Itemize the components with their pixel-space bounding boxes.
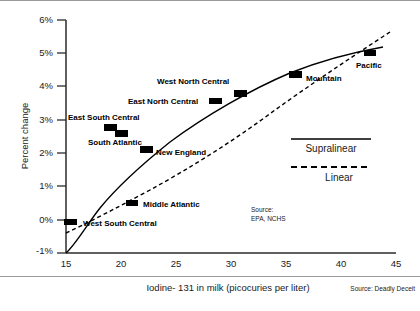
y-tick-label-4: 4% xyxy=(39,80,53,91)
y-tick-label-neg1: -1% xyxy=(36,245,53,256)
point-label-east-north-central: East North Central xyxy=(128,97,198,106)
chart-legend: Supralinear Linear xyxy=(291,139,371,183)
point-label-west-north-central: West North Central xyxy=(157,77,229,86)
marker-middle-atlantic xyxy=(126,200,138,206)
y-tick-label-1: 1% xyxy=(39,180,53,191)
chart-figure: 6% 5% 4% 3% 2% 1% 0% -1% 15 20 25 30 35 … xyxy=(0,0,420,311)
y-axis-title: Percent change xyxy=(19,103,30,170)
y-axis-ticks xyxy=(57,20,66,253)
point-label-pacific: Pacific xyxy=(356,61,382,70)
point-label-mountain: Mountain xyxy=(306,74,342,83)
marker-west-north-central xyxy=(234,90,247,97)
x-tick-label-15: 15 xyxy=(61,258,72,269)
source-note-line1: Source: xyxy=(251,206,274,213)
marker-east-south-central xyxy=(104,124,117,131)
x-tick-label-20: 20 xyxy=(116,258,127,269)
y-tick-label-6: 6% xyxy=(39,14,53,25)
x-tick-label-30: 30 xyxy=(226,258,237,269)
point-label-middle-atlantic: Middle Atlantic xyxy=(143,200,200,209)
point-label-east-south-central: East South Central xyxy=(68,113,140,122)
source-note-line2: EPA, NCHS xyxy=(251,215,286,222)
x-tick-label-25: 25 xyxy=(171,258,182,269)
marker-new-england xyxy=(140,146,153,153)
y-tick-label-3: 3% xyxy=(39,114,53,125)
y-tick-label-5: 5% xyxy=(39,47,53,58)
marker-pacific xyxy=(364,50,376,56)
marker-east-north-central xyxy=(209,98,222,104)
legend-label-supralinear: Supralinear xyxy=(305,143,357,154)
x-tick-label-45: 45 xyxy=(391,258,402,269)
point-label-new-england: New England xyxy=(156,148,206,157)
marker-mountain xyxy=(289,71,302,78)
point-label-south-atlantic: South Atlantic xyxy=(88,138,142,147)
marker-west-south-central xyxy=(64,219,77,225)
x-tick-label-35: 35 xyxy=(281,258,292,269)
legend-label-linear: Linear xyxy=(325,172,353,183)
credit-note: Source: Deadly Deceit xyxy=(350,285,415,293)
x-axis-title: Iodine- 131 in milk (picocuries per lite… xyxy=(146,282,309,293)
marker-south-atlantic xyxy=(115,130,128,137)
chart-canvas: 6% 5% 4% 3% 2% 1% 0% -1% 15 20 25 30 35 … xyxy=(0,0,420,311)
x-tick-label-40: 40 xyxy=(336,258,347,269)
y-tick-label-2: 2% xyxy=(39,147,53,158)
y-tick-label-0: 0% xyxy=(39,214,53,225)
series-linear-curve xyxy=(66,32,390,233)
point-label-west-south-central: West South Central xyxy=(83,219,157,228)
